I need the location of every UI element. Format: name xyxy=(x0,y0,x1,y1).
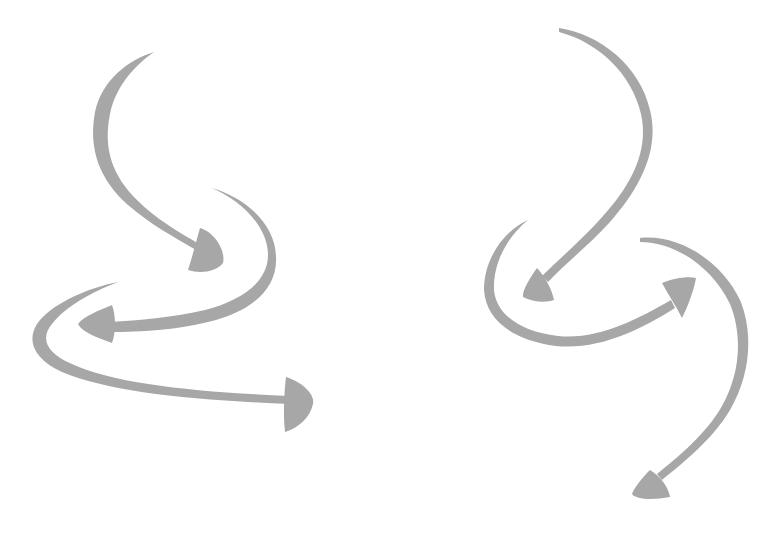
right-arrow-group xyxy=(484,28,748,499)
arrowhead-icon xyxy=(284,377,313,432)
left-arrow-2 xyxy=(78,188,276,343)
curved-arrow-shaft-icon xyxy=(542,28,653,282)
curved-arrow-shaft-icon xyxy=(93,52,199,250)
left-arrow-3 xyxy=(32,282,313,432)
arrowhead-icon xyxy=(78,305,115,343)
left-arrow-group xyxy=(32,52,313,432)
right-arrow-1 xyxy=(523,28,653,302)
curved-arrow-shaft-icon xyxy=(640,238,748,480)
arrowhead-icon xyxy=(188,228,223,272)
right-arrow-3 xyxy=(632,238,748,499)
left-arrow-1 xyxy=(93,52,223,272)
arrows-canvas xyxy=(0,0,784,544)
